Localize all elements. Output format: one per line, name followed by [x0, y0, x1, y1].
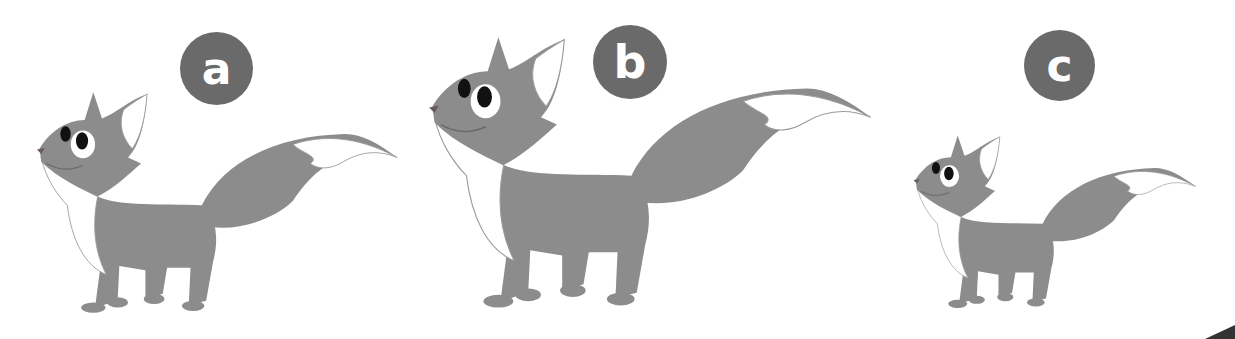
label-c: c [1046, 40, 1072, 91]
label-a: a [202, 43, 232, 94]
fox-illustration-a [22, 88, 412, 318]
page-corner-shadow [1205, 325, 1235, 339]
fox-illustration-b [410, 32, 890, 314]
label-badge-c: c [1024, 30, 1095, 101]
fox-illustration-c [902, 132, 1207, 312]
